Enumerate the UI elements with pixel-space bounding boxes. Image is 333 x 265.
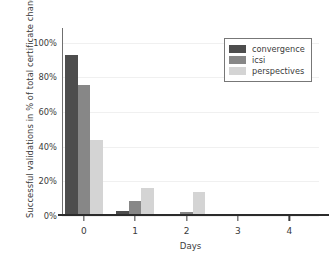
x-axis-line bbox=[58, 214, 329, 216]
y-tick-label: 100% bbox=[33, 38, 57, 48]
legend-item[interactable]: perspectives bbox=[229, 66, 305, 76]
bar bbox=[141, 188, 154, 216]
gridline bbox=[62, 112, 319, 113]
y-tick-label: 0% bbox=[44, 211, 57, 221]
bar bbox=[90, 140, 103, 216]
legend-item[interactable]: convergence bbox=[229, 44, 305, 54]
legend-swatch-icon bbox=[229, 45, 246, 53]
legend-label: icsi bbox=[252, 56, 265, 64]
y-tick-label: 40% bbox=[39, 142, 57, 152]
bar bbox=[78, 85, 91, 216]
x-tick-label: 4 bbox=[286, 226, 292, 236]
bar bbox=[65, 55, 78, 216]
bar bbox=[193, 192, 206, 216]
y-axis-line bbox=[62, 28, 63, 216]
x-axis-label: Days bbox=[62, 241, 319, 251]
x-tick-mark bbox=[134, 216, 135, 221]
bar-chart-figure: Successful validations in % of total cer… bbox=[0, 0, 333, 265]
x-tick-label: 3 bbox=[235, 226, 241, 236]
y-tick-label: 20% bbox=[39, 176, 57, 186]
x-tick-mark bbox=[237, 216, 238, 221]
legend-swatch-icon bbox=[229, 56, 246, 64]
legend-label: convergence bbox=[252, 45, 305, 53]
x-tick-mark bbox=[186, 216, 187, 221]
y-tick-label: 60% bbox=[39, 107, 57, 117]
x-tick-label: 1 bbox=[132, 226, 138, 236]
legend-item[interactable]: icsi bbox=[229, 55, 305, 65]
chart-legend: convergenceicsiperspectives bbox=[224, 38, 312, 82]
legend-swatch-icon bbox=[229, 67, 246, 75]
y-axis-label: Successful validations in % of total cer… bbox=[25, 0, 35, 218]
x-tick-label: 0 bbox=[81, 226, 87, 236]
gridline bbox=[62, 216, 319, 217]
x-tick-label: 2 bbox=[184, 226, 190, 236]
x-tick-mark bbox=[83, 216, 84, 221]
legend-label: perspectives bbox=[252, 67, 304, 75]
x-tick-mark bbox=[289, 216, 290, 221]
y-tick-label: 80% bbox=[39, 72, 57, 82]
